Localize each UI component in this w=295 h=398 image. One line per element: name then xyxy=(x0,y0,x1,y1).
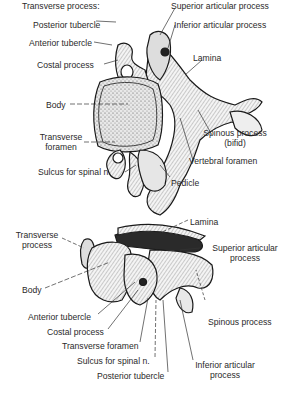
label-posterior-tubercle: Posterior tubercle xyxy=(33,20,100,30)
label-side-transverse-foramen: Transverse foramen xyxy=(62,341,139,351)
label-side-lamina: Lamina xyxy=(190,217,218,227)
label-transverse-process-heading: Transverse process: xyxy=(22,1,100,11)
label-side-sulcus-spinal-nerve: Sulcus for spinal n. xyxy=(77,356,150,366)
label-side-inferior-articular-process: Inferior articular process xyxy=(190,360,260,380)
label-side-spinous-process: Spinous process xyxy=(208,317,272,327)
label-anterior-tubercle: Anterior tubercle xyxy=(29,38,92,48)
label-pedicle: Pedicle xyxy=(171,178,199,188)
label-spinous-process-bifid: Spinous process (bifid) xyxy=(200,128,270,148)
label-side-transverse-process: Transverse process xyxy=(14,230,60,250)
label-vertebral-foramen: Vertebral foramen xyxy=(189,156,257,166)
label-side-anterior-tubercle: Anterior tubercle xyxy=(28,312,91,322)
label-sulcus-spinal-nerve: Sulcus for spinal n. xyxy=(38,167,111,177)
label-body: Body xyxy=(46,100,66,110)
label-costal-process: Costal process xyxy=(37,60,94,70)
label-lamina: Lamina xyxy=(193,53,221,63)
label-side-costal-process: Costal process xyxy=(47,327,104,337)
label-side-posterior-tubercle: Posterior tubercle xyxy=(97,371,164,381)
label-superior-articular-process: Superior articular process xyxy=(171,1,269,11)
label-inferior-articular-process: Inferior articular process xyxy=(174,20,266,30)
label-transverse-foramen: Transverse foramen xyxy=(36,132,86,152)
label-side-body: Body xyxy=(22,285,42,295)
side-view-vertebra xyxy=(81,224,213,312)
label-side-superior-articular-process: Superior articular process xyxy=(205,243,285,263)
